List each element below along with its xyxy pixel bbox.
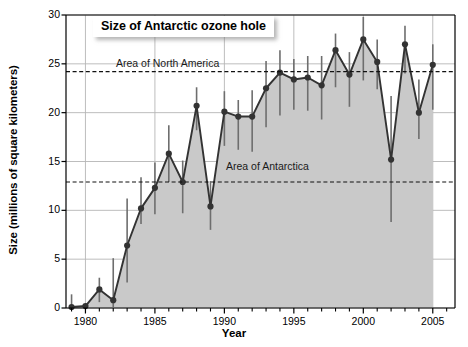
x-tick-label: 2005 bbox=[409, 315, 457, 327]
y-axis-label: Size (millions of square kilometers) bbox=[2, 0, 24, 320]
y-tick-label: 15 bbox=[26, 155, 60, 167]
data-point-marker bbox=[207, 203, 213, 209]
ozone-hole-chart-figure: Size (millions of square kilometers) Yea… bbox=[0, 0, 468, 347]
y-tick-label: 20 bbox=[26, 106, 60, 118]
y-axis-label-text: Size (millions of square kilometers) bbox=[7, 65, 19, 254]
data-point-marker bbox=[430, 62, 436, 68]
data-point-marker bbox=[110, 297, 116, 303]
x-tick-label: 1980 bbox=[61, 315, 109, 327]
data-point-marker bbox=[166, 151, 172, 157]
data-point-marker bbox=[263, 85, 269, 91]
reference-label-north-america: Area of North America bbox=[116, 57, 219, 69]
data-point-marker bbox=[374, 59, 380, 65]
data-point-marker bbox=[416, 110, 422, 116]
chart-title: Size of Antarctic ozone hole bbox=[93, 16, 274, 37]
data-point-marker bbox=[124, 242, 130, 248]
x-axis-label: Year bbox=[0, 327, 468, 339]
y-tick-label: 30 bbox=[26, 8, 60, 20]
data-point-marker bbox=[332, 47, 338, 53]
data-point-marker bbox=[291, 76, 297, 82]
data-point-marker bbox=[402, 41, 408, 47]
data-point-marker bbox=[193, 103, 199, 109]
x-tick-label: 1985 bbox=[131, 315, 179, 327]
data-point-marker bbox=[305, 74, 311, 80]
x-tick-label: 1995 bbox=[270, 315, 318, 327]
data-point-marker bbox=[388, 156, 394, 162]
data-point-marker bbox=[152, 185, 158, 191]
data-point-marker bbox=[277, 70, 283, 76]
chart-plot-area bbox=[0, 0, 468, 347]
reference-label-antarctica: Area of Antarctica bbox=[226, 160, 309, 172]
y-tick-label: 10 bbox=[26, 203, 60, 215]
y-tick-label: 0 bbox=[26, 301, 60, 313]
data-point-marker bbox=[360, 36, 366, 42]
data-point-marker bbox=[319, 82, 325, 88]
data-point-marker bbox=[235, 113, 241, 119]
x-tick-label: 2000 bbox=[339, 315, 387, 327]
data-point-marker bbox=[96, 286, 102, 292]
data-point-marker bbox=[249, 113, 255, 119]
y-tick-label: 25 bbox=[26, 57, 60, 69]
y-tick-label: 5 bbox=[26, 252, 60, 264]
data-point-marker bbox=[138, 205, 144, 211]
data-point-marker bbox=[346, 71, 352, 77]
data-point-marker bbox=[221, 109, 227, 115]
x-tick-label: 1990 bbox=[200, 315, 248, 327]
